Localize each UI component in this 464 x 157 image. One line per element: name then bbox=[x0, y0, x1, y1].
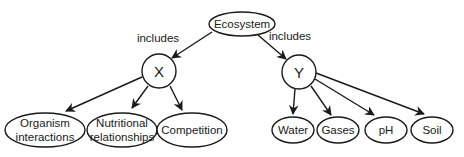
node-organism-interactions-line1: Organism bbox=[20, 117, 70, 129]
node-ph: pH bbox=[365, 117, 407, 143]
node-ph-label: pH bbox=[379, 124, 394, 136]
node-competition: Competition bbox=[157, 113, 227, 147]
node-organism-interactions: Organism interactions bbox=[5, 113, 85, 147]
node-nutritional-relationships-line1: Nutritional bbox=[96, 117, 148, 129]
edge-label-includes-left: includes bbox=[137, 32, 179, 44]
node-organism-interactions-line2: interactions bbox=[16, 131, 75, 143]
node-gases: Gases bbox=[317, 117, 359, 143]
node-ecosystem-label: Ecosystem bbox=[214, 18, 270, 30]
node-y: Y bbox=[282, 55, 316, 89]
node-water-label: Water bbox=[278, 124, 308, 136]
node-soil-label: Soil bbox=[422, 124, 441, 136]
edge-y-to-gases bbox=[311, 86, 331, 115]
node-gases-label: Gases bbox=[321, 124, 354, 136]
edges bbox=[66, 32, 424, 115]
node-nutritional-relationships: Nutritional relationships bbox=[87, 113, 157, 147]
edge-y-to-soil bbox=[316, 73, 424, 114]
edge-x-to-organism-interactions bbox=[66, 77, 142, 111]
node-nutritional-relationships-line2: relationships bbox=[90, 131, 155, 143]
node-competition-label: Competition bbox=[161, 124, 222, 136]
edge-x-to-nutritional-relationships bbox=[132, 86, 148, 108]
node-x-label: X bbox=[154, 63, 164, 80]
node-y-label: Y bbox=[294, 64, 304, 81]
node-ecosystem: Ecosystem bbox=[209, 12, 275, 36]
node-x: X bbox=[142, 54, 176, 88]
edge-label-includes-right: includes bbox=[269, 30, 311, 42]
ecosystem-concept-map: includes includes Ecosystem X Y Organism… bbox=[0, 0, 464, 157]
edge-y-to-water bbox=[293, 89, 295, 114]
node-soil: Soil bbox=[411, 117, 453, 143]
node-water: Water bbox=[272, 117, 314, 143]
edge-x-to-competition bbox=[170, 86, 182, 110]
